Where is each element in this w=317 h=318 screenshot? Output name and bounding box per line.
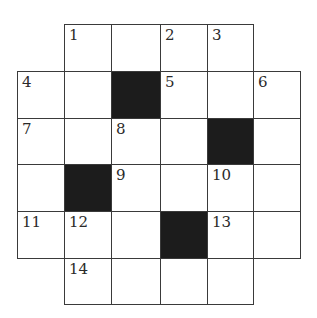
grid-cell[interactable]: 8 [111,118,161,165]
grid-cell[interactable]: 13 [207,211,254,259]
clue-number: 10 [212,167,231,183]
grid-cell[interactable] [111,258,161,305]
block-cell [64,164,112,212]
clue-number: 12 [69,214,88,230]
grid-cell[interactable] [64,118,112,165]
block-cell [160,211,208,259]
grid-cell[interactable]: 5 [160,71,208,119]
grid-cell[interactable]: 9 [111,164,161,212]
crossword-grid: 1234567891011121314 [0,0,317,318]
block-cell [111,71,161,119]
clue-number: 6 [258,74,268,90]
grid-cell[interactable] [64,71,112,119]
clue-number: 2 [165,27,175,43]
grid-cell[interactable]: 4 [17,71,65,119]
grid-cell[interactable]: 12 [64,211,112,259]
grid-cell[interactable]: 14 [64,258,112,305]
grid-cell[interactable] [111,24,161,72]
grid-cell[interactable]: 11 [17,211,65,259]
grid-cell[interactable]: 2 [160,24,208,72]
grid-cell[interactable] [160,118,208,165]
grid-cell[interactable] [207,258,254,305]
grid-cell[interactable] [160,258,208,305]
grid-cell[interactable]: 3 [207,24,254,72]
grid-cell[interactable]: 6 [253,71,301,119]
clue-number: 4 [22,74,32,90]
clue-number: 9 [116,167,126,183]
clue-number: 14 [69,261,88,277]
block-cell [207,118,254,165]
clue-number: 8 [116,121,126,137]
clue-number: 7 [22,121,32,137]
clue-number: 3 [212,27,222,43]
grid-cell[interactable] [17,164,65,212]
grid-cell[interactable] [253,118,301,165]
grid-cell[interactable]: 1 [64,24,112,72]
grid-cell[interactable] [253,164,301,212]
grid-cell[interactable]: 7 [17,118,65,165]
clue-number: 11 [22,214,41,230]
grid-cell[interactable] [111,211,161,259]
grid-cell[interactable]: 10 [207,164,254,212]
grid-cell[interactable] [207,71,254,119]
clue-number: 1 [69,27,79,43]
clue-number: 5 [165,74,175,90]
grid-cell[interactable] [160,164,208,212]
grid-cell[interactable] [253,211,301,259]
clue-number: 13 [212,214,231,230]
